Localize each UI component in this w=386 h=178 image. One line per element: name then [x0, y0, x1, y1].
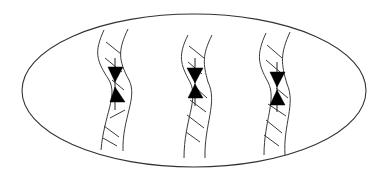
strand-right-edge	[282, 32, 290, 155]
strand-2	[181, 35, 212, 158]
hatch-mark	[106, 42, 121, 54]
hatch-mark	[104, 126, 119, 137]
hatch-mark	[187, 115, 204, 128]
strand-3	[259, 32, 290, 155]
strand-left-edge	[98, 30, 112, 150]
strands-group	[98, 29, 291, 158]
hatch-mark	[266, 60, 280, 72]
up-triangle-icon	[188, 84, 203, 98]
hatch-mark	[189, 46, 204, 58]
up-triangle-icon	[270, 90, 285, 105]
down-triangle-icon	[108, 67, 123, 82]
hatch-mark	[110, 110, 125, 118]
cell-diagram	[0, 0, 386, 178]
diagram-canvas	[0, 0, 386, 178]
hatch-mark	[103, 138, 117, 146]
hatch-mark	[266, 120, 282, 133]
hatch-mark	[186, 132, 200, 142]
hatch-mark	[267, 45, 282, 58]
strand-left-edge	[259, 33, 271, 155]
strand-1	[98, 29, 132, 151]
hatch-mark	[112, 80, 124, 90]
strand-right-edge	[121, 29, 132, 151]
down-triangle-icon	[270, 72, 285, 87]
hatch-mark	[190, 100, 206, 112]
hatch-mark	[264, 135, 279, 146]
